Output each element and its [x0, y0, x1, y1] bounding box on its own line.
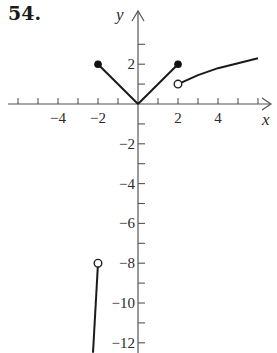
x-tick-labels: −4−224	[50, 110, 222, 126]
closed-dot-icon	[94, 60, 102, 68]
y-axis-label: y	[114, 5, 124, 24]
series-line	[178, 58, 258, 84]
open-dot-icon	[94, 259, 102, 267]
x-tick-label: −2	[90, 110, 106, 126]
x-tick-label: −4	[50, 110, 66, 126]
open-dot-icon	[174, 80, 182, 88]
series-line	[93, 263, 98, 353]
y-ticks	[138, 44, 145, 343]
y-tick-label: −2	[119, 136, 135, 152]
y-tick-label: 2	[128, 56, 136, 72]
y-tick-label: −8	[119, 255, 135, 271]
y-tick-label: −6	[119, 215, 135, 231]
graph: −4−224 2−2−4−6−8−10−12 x y	[0, 0, 277, 353]
y-tick-label: −4	[119, 176, 135, 192]
y-tick-label: −12	[112, 335, 135, 351]
y-tick-labels: 2−2−4−6−8−10−12	[112, 56, 136, 351]
closed-dot-icon	[174, 60, 182, 68]
x-tick-label: 2	[174, 110, 182, 126]
y-tick-label: −10	[112, 295, 135, 311]
axes	[8, 11, 271, 353]
x-axis-label: x	[261, 110, 270, 129]
x-tick-label: 4	[214, 110, 222, 126]
